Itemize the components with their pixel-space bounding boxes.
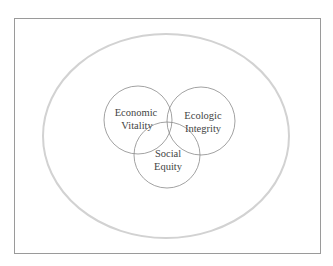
circle-ecologic-integrity — [167, 87, 235, 155]
label-ecologic-line2: Integrity — [185, 123, 222, 134]
label-economic-line2: Vitality — [121, 120, 153, 131]
diagram-frame — [15, 19, 321, 254]
label-economic-line1: Economic — [115, 107, 158, 118]
venn-diagram: Economic Vitality Ecologic Integrity Soc… — [0, 0, 333, 266]
label-social-line1: Social — [155, 148, 181, 159]
label-social-line2: Equity — [154, 161, 183, 172]
outer-ellipse — [43, 34, 289, 238]
label-ecologic-line1: Ecologic — [184, 110, 222, 121]
